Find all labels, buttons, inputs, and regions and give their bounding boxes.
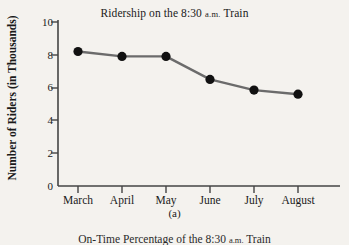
data-point-july bbox=[249, 86, 258, 95]
next-figure-title: On-Time Percentage of the 8:30 a.m. Trai… bbox=[0, 233, 349, 245]
data-point-august bbox=[293, 90, 302, 99]
next-figure-title-smallcaps: a.m. bbox=[229, 235, 244, 245]
data-point-may bbox=[161, 52, 170, 61]
data-point-june bbox=[205, 75, 214, 84]
subfigure-caption: (a) bbox=[0, 207, 349, 219]
data-line bbox=[78, 52, 298, 95]
x-tick-label-august: August bbox=[263, 194, 333, 206]
data-point-march bbox=[73, 47, 82, 56]
data-point-april bbox=[117, 52, 126, 61]
next-figure-title-suffix: Train bbox=[244, 233, 271, 245]
next-figure-title-prefix: On-Time Percentage of the 8:30 bbox=[78, 233, 229, 245]
